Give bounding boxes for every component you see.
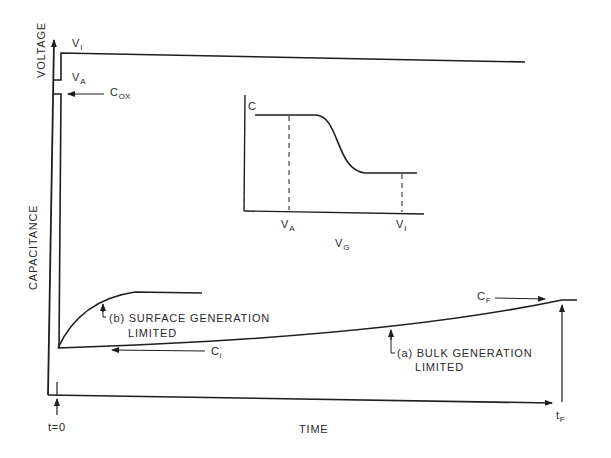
inset-vi-text: V	[396, 218, 404, 230]
inset-vg-text: V	[335, 237, 343, 249]
inset-y-label: C	[248, 101, 257, 112]
inset-vi-sub: I	[404, 224, 406, 233]
inset-va-sub: A	[289, 224, 294, 233]
cf-sub: F	[486, 296, 491, 305]
y-axis	[48, 40, 54, 395]
vi-sub: I	[80, 43, 82, 52]
cf-label: CF	[477, 291, 491, 305]
cox-text: C	[110, 86, 119, 98]
curve-b-label-line2: LIMITED	[128, 328, 177, 339]
cf-arrow	[495, 298, 545, 299]
vi-label: VI	[72, 38, 82, 52]
curve-a-bulk-generation	[58, 300, 577, 348]
inset-cv-curve	[255, 115, 417, 173]
curve-a-label-line2: LIMITED	[415, 362, 464, 373]
inset-y-axis	[244, 95, 245, 211]
ci-label: Ci	[211, 346, 222, 360]
cox-label: COX	[110, 87, 130, 101]
va-sub: A	[80, 77, 85, 86]
x-axis-label-time: TIME	[299, 424, 328, 435]
cf-text: C	[477, 290, 486, 302]
ci-sub: i	[220, 351, 222, 360]
ci-arrow	[112, 350, 205, 351]
y-axis-label-voltage: VOLTAGE	[36, 22, 47, 78]
tf-sub: F	[560, 415, 565, 424]
curve-a-label-line1: (a) BULK GENERATION	[397, 348, 532, 359]
x-axis	[48, 395, 552, 403]
va-label: VA	[72, 72, 85, 86]
capacitance-time-diagram	[0, 0, 611, 458]
voltage-step-trace	[54, 53, 525, 80]
inset-vg-sub: G	[343, 243, 349, 252]
vi-text: V	[72, 37, 80, 49]
y-axis-label-capacitance: CAPACITANCE	[28, 205, 39, 290]
va-text: V	[72, 71, 80, 83]
capacitance-drop-trace	[54, 94, 61, 348]
inset-tick-va: VA	[281, 219, 294, 233]
tf-label: tF	[556, 410, 565, 424]
curve-b-label-line1: (b) SURFACE GENERATION	[109, 313, 270, 324]
inset-tick-vi: VI	[396, 219, 406, 233]
ci-text: C	[211, 345, 220, 357]
inset-x-axis	[244, 211, 424, 214]
t0-label: t=0	[48, 422, 66, 433]
inset-va-text: V	[281, 218, 289, 230]
inset-x-label: VG	[335, 238, 349, 252]
cox-sub: OX	[119, 92, 131, 101]
inset-cv-plot	[244, 95, 424, 214]
